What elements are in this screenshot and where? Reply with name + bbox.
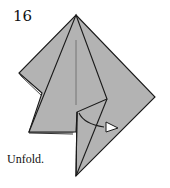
step-instruction: Unfold.	[7, 153, 44, 165]
flap-bottom-edge	[29, 133, 73, 134]
step-number: 16	[13, 9, 32, 24]
